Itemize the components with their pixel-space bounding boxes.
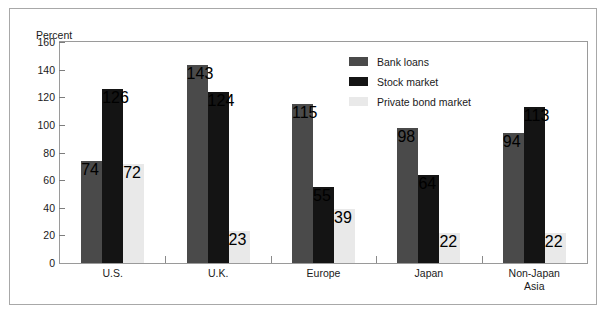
bar: 39: [334, 209, 355, 263]
chart-legend: Bank loansStock marketPrivate bond marke…: [349, 53, 471, 113]
legend-item: Stock market: [349, 73, 471, 90]
y-axis-tick-mark: [59, 70, 65, 71]
bar: 74: [81, 161, 102, 263]
x-axis-category-label: Non-Japan Asia: [482, 267, 587, 293]
y-axis-tick-label: 80: [17, 147, 55, 159]
bar: 113: [524, 107, 545, 263]
bar-group: 14312423: [187, 42, 250, 263]
bar-group: 7412672: [81, 42, 144, 263]
y-axis-tick-label: 140: [17, 64, 55, 76]
bar: 64: [418, 175, 439, 263]
y-axis-tick-mark: [59, 97, 65, 98]
y-axis-tick-labels: 020406080100120140160: [10, 9, 55, 304]
y-axis-tick-mark: [59, 125, 65, 126]
bar: 126: [102, 89, 123, 263]
bar: 94: [503, 133, 524, 263]
x-axis-tick-mark: [271, 256, 272, 263]
legend-item: Bank loans: [349, 53, 471, 70]
legend-swatch-icon: [349, 97, 368, 106]
bar-group: 9411322: [503, 42, 566, 263]
plot-area: 74126721431242311555399864229411322: [60, 42, 587, 263]
legend-label: Bank loans: [377, 56, 429, 68]
y-axis-tick-label: 160: [17, 36, 55, 48]
bar: 22: [439, 233, 460, 263]
chart-figure: Percent 020406080100120140160 7412672143…: [9, 8, 597, 305]
x-axis-category-label: U.K.: [165, 267, 270, 280]
bar-group: 1155539: [292, 42, 355, 263]
x-axis-tick-mark: [165, 256, 166, 263]
legend-swatch-icon: [349, 77, 368, 86]
bar: 72: [123, 164, 144, 263]
y-axis-tick-label: 40: [17, 202, 55, 214]
bar: 143: [187, 65, 208, 263]
legend-swatch-icon: [349, 57, 368, 66]
y-axis-tick-label: 120: [17, 91, 55, 103]
bar: 115: [292, 104, 313, 263]
y-axis-tick-mark: [59, 153, 65, 154]
bar: 55: [313, 187, 334, 263]
x-axis-category-label: Japan: [376, 267, 481, 280]
y-axis-tick-label: 20: [17, 229, 55, 241]
y-axis-tick-label: 100: [17, 119, 55, 131]
x-axis-tick-mark: [376, 256, 377, 263]
legend-item: Private bond market: [349, 93, 471, 110]
y-axis-tick-label: 60: [17, 174, 55, 186]
y-axis-tick-mark: [59, 235, 65, 236]
bar: 23: [229, 231, 250, 263]
y-axis-tick-mark: [59, 42, 65, 43]
legend-label: Private bond market: [377, 96, 471, 108]
legend-label: Stock market: [377, 76, 438, 88]
y-axis-tick-mark: [59, 180, 65, 181]
x-axis-tick-mark: [482, 256, 483, 263]
bar: 124: [208, 92, 229, 263]
y-axis-tick-mark: [59, 208, 65, 209]
bar: 22: [545, 233, 566, 263]
bar: 98: [397, 128, 418, 263]
x-axis-category-label: Europe: [271, 267, 376, 280]
x-axis-category-label: U.S.: [60, 267, 165, 280]
y-axis-tick-label: 0: [17, 257, 55, 269]
